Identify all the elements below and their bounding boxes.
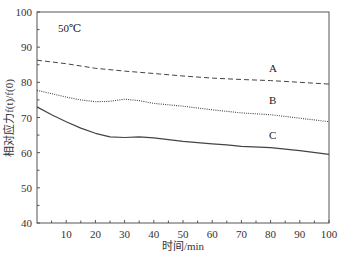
y-axis-title: 相对应力f(t)/f(0) xyxy=(2,79,16,157)
y-tick-label: 40 xyxy=(21,217,33,229)
y-tick-label: 100 xyxy=(16,6,33,18)
x-tick-label: 30 xyxy=(119,228,131,240)
curve-c xyxy=(37,107,329,154)
y-axis: 405060708090100 xyxy=(16,6,41,229)
curve-label-c: C xyxy=(269,129,276,141)
stress-relaxation-chart: 405060708090100 102030405060708090100 50… xyxy=(0,0,343,255)
x-tick-label: 70 xyxy=(236,228,248,240)
x-tick-label: 20 xyxy=(90,228,102,240)
curves xyxy=(37,60,329,154)
y-tick-label: 60 xyxy=(21,147,33,159)
x-tick-label: 100 xyxy=(321,228,338,240)
x-axis-title: 时间/min xyxy=(162,240,205,252)
plot-frame xyxy=(37,12,329,223)
y-tick-label: 90 xyxy=(21,41,33,53)
y-tick-label: 80 xyxy=(21,76,33,88)
x-tick-label: 60 xyxy=(207,228,219,240)
temperature-annotation: 50℃ xyxy=(58,22,81,34)
x-tick-label: 10 xyxy=(61,228,73,240)
x-tick-label: 40 xyxy=(148,228,160,240)
x-tick-label: 80 xyxy=(265,228,277,240)
x-tick-label: 90 xyxy=(294,228,306,240)
x-tick-label: 50 xyxy=(178,228,190,240)
curve-a xyxy=(37,60,329,84)
y-tick-label: 50 xyxy=(21,182,33,194)
curve-b xyxy=(37,90,329,121)
y-tick-label: 70 xyxy=(21,112,33,124)
curve-label-b: B xyxy=(269,94,276,106)
curve-label-a: A xyxy=(269,62,277,74)
